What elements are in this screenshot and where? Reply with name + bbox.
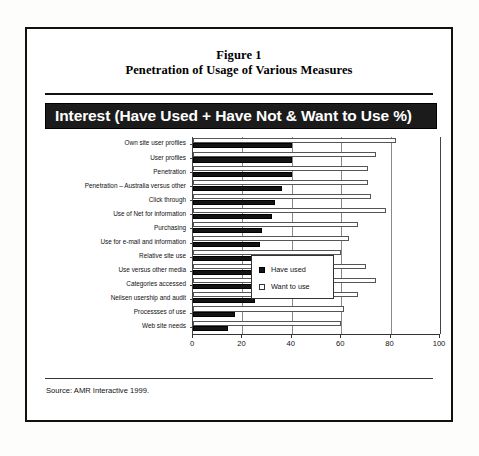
x-tick-label-40: 40: [287, 339, 295, 348]
category-tick: [190, 228, 193, 229]
bar-have-used: [193, 186, 282, 191]
category-label: Processses of use: [134, 308, 186, 316]
category-tick: [190, 257, 193, 258]
legend-label-have-used: Have used: [271, 265, 306, 274]
category-tick: [190, 214, 193, 215]
plot-wrapper: Own site user profilesUser profilesPenet…: [45, 137, 437, 361]
x-tick-60: [340, 334, 341, 338]
category-label: Web site needs: [142, 322, 186, 330]
bar-have-used: [193, 143, 292, 148]
category-tick: [190, 285, 193, 286]
x-tick-label-0: 0: [190, 339, 194, 348]
chart-legend: Have used Want to use: [251, 255, 334, 299]
bar-have-used: [193, 200, 275, 205]
chart-area: Interest (Have Used + Have Not & Want to…: [45, 103, 437, 366]
figure-title-line1: Figure 1: [27, 48, 451, 63]
bar-have-used: [193, 172, 292, 177]
bar-want-to-use: [193, 321, 341, 326]
x-tick-20: [241, 334, 242, 338]
category-label: Penetration – Australia versus other: [85, 182, 186, 190]
category-label: Use of Net for information: [113, 210, 186, 218]
category-tick: [190, 271, 193, 272]
bar-want-to-use: [193, 194, 371, 199]
x-tick-40: [291, 334, 292, 338]
category-tick: [190, 158, 193, 159]
figure-title-line2: Penetration of Usage of Various Measures: [27, 63, 451, 78]
bar-have-used: [193, 298, 255, 303]
category-label: Categories accessed: [126, 280, 186, 288]
bar-have-used: [193, 242, 260, 247]
category-tick: [190, 172, 193, 173]
x-axis-line: [192, 334, 439, 335]
category-label: Click through: [149, 196, 186, 204]
x-tick-0: [192, 334, 193, 338]
category-label: Use for e-mail and information: [100, 238, 186, 246]
category-tick: [190, 299, 193, 300]
bar-have-used: [193, 228, 262, 233]
chart-banner: Interest (Have Used + Have Not & Want to…: [45, 103, 437, 129]
source-note: Source: AMR Interactive 1999.: [46, 386, 149, 395]
x-tick-label-60: 60: [336, 339, 344, 348]
figure-frame: Figure 1 Penetration of Usage of Various…: [25, 27, 453, 422]
legend-swatch-have-used-icon: [259, 267, 265, 273]
category-label: Purchasing: [154, 224, 186, 232]
bar-have-used: [193, 270, 255, 275]
bar-have-used: [193, 214, 272, 219]
category-label: Use versus other media: [119, 266, 187, 274]
bar-want-to-use: [193, 166, 368, 171]
bar-want-to-use: [193, 306, 344, 311]
legend-item-want-to-use: Want to use: [259, 282, 310, 291]
chart-banner-label: Interest (Have Used + Have Not & Want to…: [55, 107, 412, 125]
category-label: Own site user profiles: [125, 139, 186, 147]
category-label: User profiles: [150, 154, 186, 162]
x-tick-label-20: 20: [237, 339, 245, 348]
category-tick: [190, 243, 193, 244]
bar-have-used: [193, 284, 255, 289]
bar-want-to-use: [193, 180, 368, 185]
category-tick: [190, 313, 193, 314]
bar-want-to-use: [193, 152, 376, 157]
bar-want-to-use: [193, 236, 349, 241]
category-tick: [190, 186, 193, 187]
legend-item-have-used: Have used: [259, 265, 306, 274]
figure-title: Figure 1 Penetration of Usage of Various…: [27, 48, 451, 78]
page-background: Figure 1 Penetration of Usage of Various…: [0, 0, 479, 456]
bar-want-to-use: [193, 222, 358, 227]
gridline-80: [391, 137, 392, 334]
bar-have-used: [193, 326, 228, 331]
category-tick: [190, 200, 193, 201]
bar-want-to-use: [193, 208, 386, 213]
bar-have-used: [193, 312, 235, 317]
category-label: Relative site use: [139, 252, 186, 260]
bar-want-to-use: [193, 138, 396, 143]
category-label: Penetration: [153, 168, 186, 176]
category-tick: [190, 327, 193, 328]
x-tick-80: [390, 334, 391, 338]
x-tick-100: [439, 334, 440, 338]
source-divider: [45, 378, 433, 379]
plot-canvas: [192, 137, 440, 334]
x-tick-label-100: 100: [433, 339, 446, 348]
title-divider: [45, 93, 433, 95]
category-axis-labels: Own site user profilesUser profilesPenet…: [45, 137, 189, 334]
gridline-100: [440, 137, 441, 334]
category-label: Neilsen usership and audit: [111, 294, 186, 302]
bar-have-used: [193, 256, 260, 261]
legend-swatch-want-to-use-icon: [259, 284, 265, 290]
x-tick-label-80: 80: [385, 339, 393, 348]
legend-label-want-to-use: Want to use: [271, 282, 310, 291]
category-tick: [190, 144, 193, 145]
bar-have-used: [193, 157, 292, 162]
